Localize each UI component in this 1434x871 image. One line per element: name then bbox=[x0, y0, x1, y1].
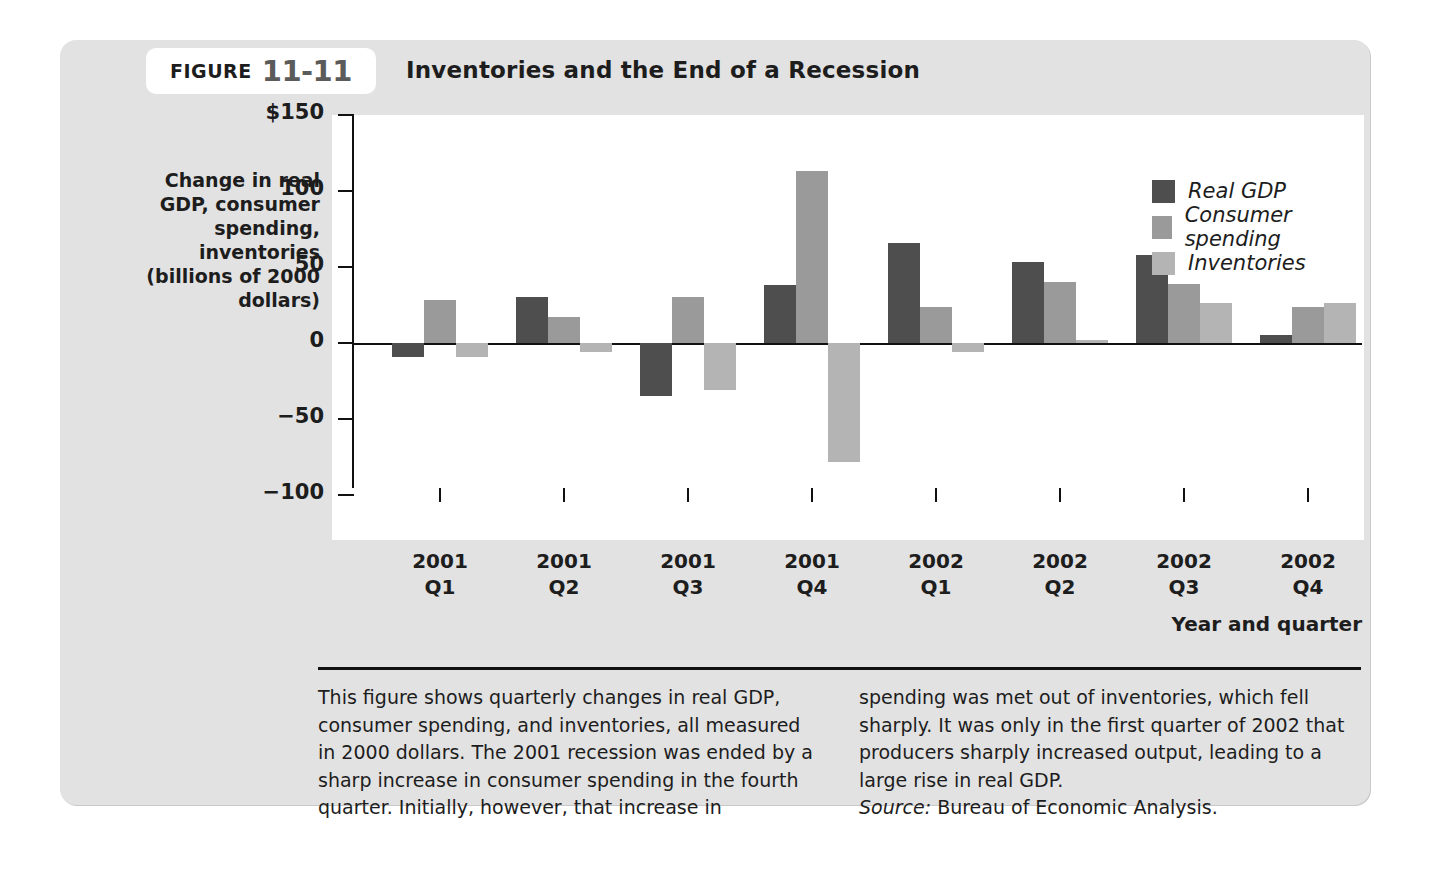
caption-divider bbox=[318, 667, 1361, 670]
caption-column-right: spending was met out of inventories, whi… bbox=[859, 684, 1364, 822]
bar bbox=[640, 343, 672, 396]
figure-number: 11-11 bbox=[262, 54, 352, 88]
figure-label-word: FIGURE bbox=[170, 60, 252, 82]
x-axis-tick bbox=[935, 488, 937, 502]
x-axis-tick bbox=[687, 488, 689, 502]
x-axis-tick bbox=[1059, 488, 1061, 502]
y-axis-tick bbox=[338, 114, 354, 116]
y-axis-tick bbox=[338, 342, 354, 344]
bar bbox=[1292, 307, 1324, 343]
bar bbox=[764, 285, 796, 343]
x-axis-category-label: 2002Q3 bbox=[1124, 548, 1244, 600]
figure-caption: This figure shows quarterly changes in r… bbox=[318, 684, 1364, 822]
y-axis-tick-label: 0 bbox=[204, 328, 324, 352]
legend-swatch-consumer-spending bbox=[1152, 216, 1172, 239]
bar bbox=[424, 300, 456, 343]
source-value: Bureau of Economic Analysis. bbox=[937, 796, 1218, 818]
y-axis-tick-label: 100 bbox=[204, 176, 324, 200]
legend-label-inventories: Inventories bbox=[1188, 251, 1306, 275]
y-axis-tick bbox=[338, 190, 354, 192]
x-axis-category-label: 2001Q4 bbox=[752, 548, 872, 600]
figure-title: Inventories and the End of a Recession bbox=[406, 57, 920, 83]
bar bbox=[516, 297, 548, 343]
chart-legend: Real GDP Consumer spending Inventories bbox=[1152, 173, 1364, 281]
x-axis-category-label: 2001Q2 bbox=[504, 548, 624, 600]
bar bbox=[672, 297, 704, 343]
caption-text-left: This figure shows quarterly changes in r… bbox=[318, 684, 823, 822]
x-axis-tick bbox=[1307, 488, 1309, 502]
x-axis-tick bbox=[1183, 488, 1185, 502]
x-axis-category-label: 2001Q3 bbox=[628, 548, 748, 600]
bar bbox=[1200, 303, 1232, 343]
bar bbox=[1044, 282, 1076, 343]
legend-label-consumer-spending: Consumer spending bbox=[1185, 203, 1364, 251]
bar bbox=[392, 343, 424, 357]
x-axis-tick bbox=[811, 488, 813, 502]
caption-source: Source: Bureau of Economic Analysis. bbox=[859, 794, 1364, 822]
bar bbox=[456, 343, 488, 357]
bar bbox=[1324, 303, 1356, 343]
legend-label-real-gdp: Real GDP bbox=[1188, 179, 1286, 203]
y-axis-tick-label: −100 bbox=[204, 480, 324, 504]
y-axis-tick bbox=[338, 266, 354, 268]
chart-plot-background: Real GDP Consumer spending Inventories bbox=[332, 115, 1364, 540]
bar bbox=[548, 317, 580, 343]
x-axis-tick bbox=[439, 488, 441, 502]
bar bbox=[580, 343, 612, 352]
bar bbox=[1012, 262, 1044, 343]
legend-swatch-real-gdp bbox=[1152, 180, 1175, 203]
bar bbox=[1168, 284, 1200, 343]
bar bbox=[952, 343, 984, 352]
y-axis-tick-label: −50 bbox=[204, 404, 324, 428]
x-axis-tick bbox=[563, 488, 565, 502]
figure-header: FIGURE 11-11 Inventories and the End of … bbox=[60, 40, 1370, 102]
legend-item-consumer-spending: Consumer spending bbox=[1152, 209, 1364, 245]
y-axis-tick-label: $150 bbox=[204, 100, 324, 124]
bar bbox=[796, 171, 828, 343]
y-axis-tick-label: 50 bbox=[204, 252, 324, 276]
x-axis-title: Year and quarter bbox=[1172, 612, 1362, 636]
legend-swatch-inventories bbox=[1152, 252, 1175, 275]
y-axis-tick bbox=[338, 494, 354, 496]
bar bbox=[828, 343, 860, 462]
x-axis-category-label: 2002Q4 bbox=[1248, 548, 1368, 600]
x-axis-category-label: 2001Q1 bbox=[380, 548, 500, 600]
bar bbox=[888, 243, 920, 343]
figure-panel: FIGURE 11-11 Inventories and the End of … bbox=[60, 40, 1370, 805]
source-label: Source: bbox=[859, 796, 931, 818]
caption-text-right: spending was met out of inventories, whi… bbox=[859, 684, 1364, 794]
y-axis-tick bbox=[338, 418, 354, 420]
caption-column-left: This figure shows quarterly changes in r… bbox=[318, 684, 823, 822]
bar bbox=[1260, 335, 1292, 343]
bar bbox=[920, 307, 952, 343]
bar bbox=[704, 343, 736, 390]
figure-number-badge: FIGURE 11-11 bbox=[146, 48, 376, 94]
x-axis-category-label: 2002Q2 bbox=[1000, 548, 1120, 600]
x-axis-category-label: 2002Q1 bbox=[876, 548, 996, 600]
y-axis-line bbox=[352, 115, 354, 488]
bar bbox=[1076, 340, 1108, 343]
